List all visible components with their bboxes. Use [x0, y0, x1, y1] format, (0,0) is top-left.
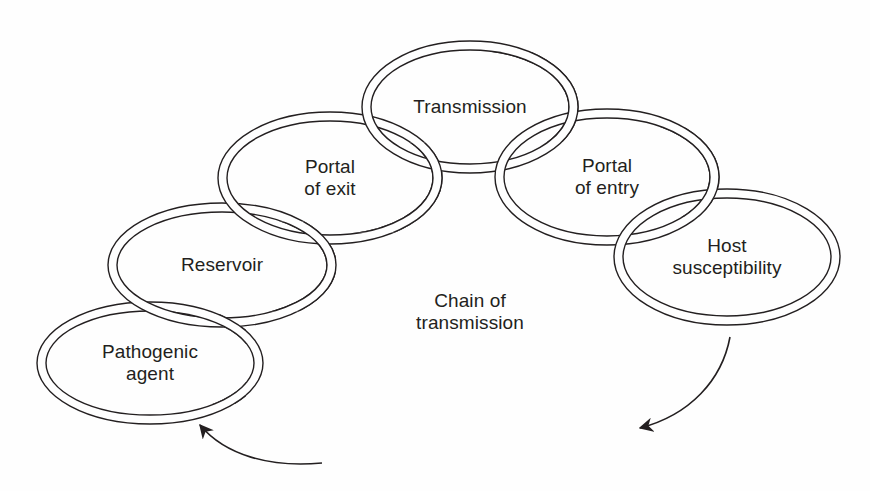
chain-of-transmission-diagram: Pathogenic agentReservoirPortal of exitT… — [0, 0, 870, 491]
arrow-host-to-center — [640, 337, 730, 428]
arrow-to-pathogenic-agent — [200, 425, 322, 464]
ring-label-portal-of-entry: Portal of entry — [575, 155, 639, 199]
ring-label-transmission: Transmission — [413, 96, 526, 118]
chain-of-transmission-label: Chain of transmission — [416, 290, 524, 334]
ring-label-portal-of-exit: Portal of exit — [304, 156, 355, 200]
ring-label-host-susceptibility: Host susceptibility — [672, 235, 781, 279]
ring-label-reservoir: Reservoir — [181, 254, 263, 276]
ring-label-pathogenic-agent: Pathogenic agent — [102, 341, 198, 385]
